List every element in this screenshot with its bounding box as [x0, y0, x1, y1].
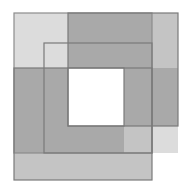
figure-container: Three overlapping squares forming a nest… [0, 0, 192, 193]
region-top-left-light [14, 13, 68, 68]
region-bottom-band-dark [68, 126, 124, 153]
region-right-lower-light [152, 126, 178, 153]
region-left-overlap-dark [14, 68, 68, 153]
region-right-lower-dark [124, 68, 178, 126]
region-right-mid-medium [124, 126, 152, 153]
region-center-white [68, 68, 124, 126]
region-bottom-band-medium [68, 153, 124, 180]
region-top-overlap-dark [68, 13, 152, 68]
region-left-band-medium [14, 153, 68, 180]
region-top-right-medium [152, 13, 178, 68]
region-bottom-right-medium [124, 153, 152, 180]
overlapping-squares-diagram [0, 0, 192, 193]
